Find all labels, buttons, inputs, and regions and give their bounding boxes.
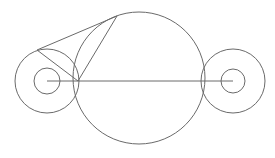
diagram-canvas: [0, 0, 275, 158]
geometry-diagram: [0, 0, 275, 158]
big-circle: [73, 12, 205, 144]
tangent-top-line: [37, 16, 117, 50]
apex-chord-line: [78, 16, 117, 81]
tangent-radius-line: [37, 50, 78, 81]
lines-group: [37, 16, 233, 81]
circles-group: [15, 12, 265, 144]
